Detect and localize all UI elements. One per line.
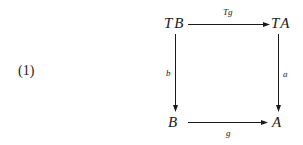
- arrowhead-top-icon: [263, 22, 270, 27]
- arrowhead-left-icon: [173, 105, 178, 112]
- arrows-layer: [0, 0, 303, 145]
- arrowhead-right-icon: [276, 105, 281, 112]
- arrowhead-bottom-icon: [261, 120, 268, 125]
